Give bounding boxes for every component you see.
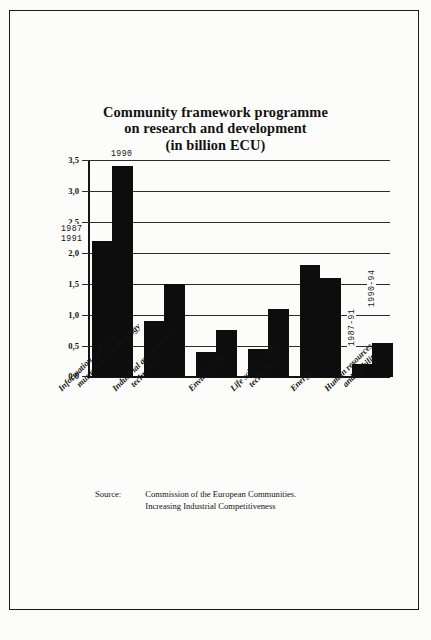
scanned-page: Community framework programme on researc… [0, 0, 431, 640]
gridline-3-0 [88, 191, 390, 192]
gridline-2-0 [88, 253, 390, 254]
chart-title-line-3: (in billion ECU) [0, 137, 431, 153]
y-tick-2-0 [82, 253, 88, 254]
y-tick-3-0 [82, 191, 88, 192]
y-axis-label-1-5: 1,5 [68, 279, 79, 289]
annotation-1990: 1990 [110, 149, 133, 158]
y-tick-1-0 [82, 315, 88, 316]
y-axis-label-3-0: 3,0 [68, 186, 79, 196]
y-axis-label-2-0: 2,0 [68, 248, 79, 258]
gridline-1-5 [88, 284, 390, 285]
y-axis-label-3-5: 3,5 [68, 155, 79, 165]
chart-title: Community framework programme on researc… [0, 104, 431, 153]
bar-chart-plot-area: 3,5 3,0 2,5 2,0 1,5 1,0 0,5 0,0 [88, 160, 390, 377]
chart-title-line-2: on research and development [0, 120, 431, 136]
y-tick-3-5 [82, 160, 88, 161]
gridline-3-5 [88, 160, 390, 161]
y-tick-1-5 [82, 284, 88, 285]
source-line-2: Increasing Industrial Competitiveness [145, 501, 296, 513]
y-axis-label-0-5: 0,5 [68, 341, 79, 351]
source-text: Commission of the European Communities. … [145, 489, 296, 512]
gridline-0-5 [88, 346, 390, 347]
source-label: Source: [95, 489, 121, 512]
chart-title-line-1: Community framework programme [0, 104, 431, 120]
annotation-1991: 1991 [60, 234, 83, 243]
gridline-1-0 [88, 315, 390, 316]
y-tick-0-5 [82, 346, 88, 347]
bar-energy-1987-91 [300, 265, 320, 377]
source-line-1: Commission of the European Communities. [145, 489, 296, 501]
bar-energy-1990-94 [320, 278, 341, 377]
annotation-1990-94: 1990-94 [367, 269, 376, 308]
annotation-1987: 1987 [60, 224, 83, 233]
gridline-2-5 [88, 222, 390, 223]
y-axis-label-1-0: 1,0 [68, 310, 79, 320]
source-note: Source: Commission of the European Commu… [95, 489, 296, 512]
annotation-1987-91: 1987-91 [347, 308, 356, 347]
y-axis-line [88, 160, 90, 377]
